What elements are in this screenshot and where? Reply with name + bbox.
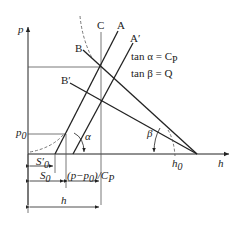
label-B: B [75, 43, 82, 54]
equation-tan-alpha: tan α = CP [131, 51, 178, 65]
line-B-prime [70, 83, 197, 154]
delta-label: (p−p0)/CP [67, 170, 114, 184]
alpha-label: α [85, 131, 91, 142]
diagram-graphics [0, 0, 245, 233]
line-B [83, 50, 197, 154]
p-axis-label: p [18, 24, 24, 35]
h0-label: h0 [172, 158, 183, 172]
beta-label: β [147, 128, 152, 139]
equation-tan-beta: tan β = Q [131, 68, 172, 79]
label-B-prime: B′ [61, 75, 71, 86]
s0-label: S0 [40, 170, 51, 184]
label-A: A [117, 20, 125, 31]
label-C: C [97, 20, 104, 31]
label-A-prime: A′ [130, 33, 140, 44]
h-axis-label: h [218, 158, 224, 169]
p0-label: p0 [16, 127, 27, 141]
dashed-curve-h0 [168, 130, 175, 156]
pressure-displacement-diagram: p h C A A′ B B′ tan α = CP tan β = Q α β… [0, 0, 245, 233]
h-dimension-label: h [61, 195, 67, 206]
dashed-curve-p0 [30, 134, 64, 152]
